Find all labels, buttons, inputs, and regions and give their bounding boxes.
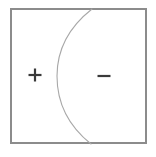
- diagram-background: [0, 0, 156, 157]
- diagram-canvas: [0, 0, 156, 157]
- plus-minus-region-diagram: [0, 0, 156, 157]
